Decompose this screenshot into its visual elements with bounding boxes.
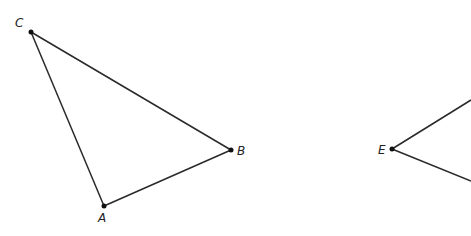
point-a bbox=[102, 204, 107, 209]
label-c: C bbox=[15, 16, 24, 30]
segment-ab bbox=[104, 150, 231, 206]
label-e: E bbox=[378, 143, 386, 157]
segment-e-upper bbox=[392, 100, 471, 149]
point-e bbox=[390, 147, 395, 152]
point-c bbox=[29, 30, 34, 35]
point-b bbox=[229, 148, 234, 153]
segment-e-lower bbox=[392, 149, 471, 181]
segment-cb bbox=[31, 32, 231, 150]
geometry-diagram: C B A E bbox=[0, 0, 471, 236]
segment-ca bbox=[31, 32, 104, 206]
label-a: A bbox=[97, 211, 106, 225]
label-b: B bbox=[237, 144, 245, 158]
figure-e: E bbox=[378, 100, 471, 181]
triangle-abc: C B A bbox=[15, 16, 245, 225]
